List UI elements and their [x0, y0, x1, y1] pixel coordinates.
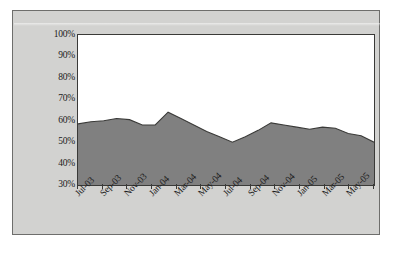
screenshot-root: 100%90%80%70%60%50%40%30% Jul-03Sep-03No… — [0, 0, 403, 260]
y-axis-tick-label: 100% — [31, 29, 75, 39]
y-axis-tick-label: 50% — [31, 136, 75, 146]
y-axis-tick-label: 60% — [31, 115, 75, 125]
y-axis: 100%90%80%70%60%50%40%30% — [21, 11, 75, 236]
x-axis-tick-mark — [373, 184, 374, 189]
plot-area — [77, 34, 375, 186]
y-axis-tick-label: 40% — [31, 158, 75, 168]
y-axis-tick-label: 80% — [31, 72, 75, 82]
y-axis-tick-label: 30% — [31, 179, 75, 189]
y-axis-tick-label: 90% — [31, 50, 75, 60]
y-axis-tick-label: 70% — [31, 93, 75, 103]
chart-frame: 100%90%80%70%60%50%40%30% Jul-03Sep-03No… — [12, 10, 380, 235]
area-series-chart — [78, 35, 374, 185]
area-fill — [78, 112, 374, 185]
